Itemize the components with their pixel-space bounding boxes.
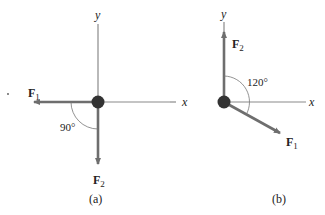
angle-label: 120° (247, 76, 268, 88)
caption-b: (b) (272, 192, 286, 206)
x-axis-label: x (308, 95, 315, 109)
force-f1-arrow (224, 102, 280, 133)
caption-a: (a) (89, 192, 102, 206)
force-diagrams: y F1 90° F2 (a) x y x F2 120° F1 (b) (0, 0, 325, 215)
force-f2-label: F2 (93, 173, 105, 189)
x-axis-label-a: x (181, 95, 188, 109)
angle-label: 90° (60, 121, 75, 133)
force-f1-label: F1 (286, 135, 298, 151)
figure-b: x y x F2 120° F1 (b) (170, 7, 315, 206)
particle (218, 96, 231, 109)
particle (92, 96, 105, 109)
y-axis-label: y (94, 8, 101, 22)
y-axis-label: y (220, 7, 227, 21)
force-f1-label: F1 (28, 86, 40, 102)
force-f2-label: F2 (232, 37, 244, 53)
stray-dot (7, 93, 9, 95)
figure-a: y F1 90° F2 (a) (7, 8, 170, 206)
